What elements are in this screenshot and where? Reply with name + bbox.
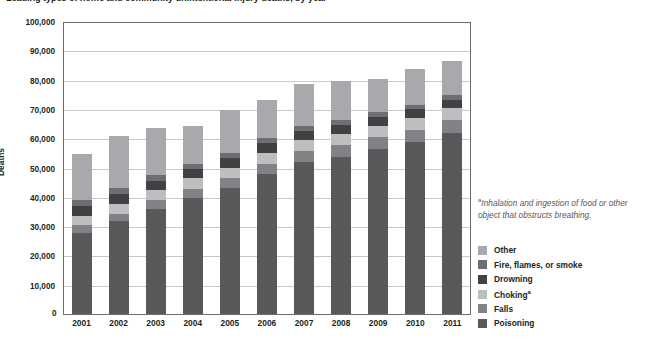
y-axis-tick-label: 40,000: [30, 193, 55, 202]
x-axis-tick-label: 2006: [250, 318, 284, 332]
footnote: aInhalation and ingestion of food or oth…: [478, 196, 646, 221]
legend-item-label: Poisoning: [494, 318, 534, 328]
x-axis-tick-label: 2007: [287, 318, 321, 332]
x-axis-tick-label: 2010: [398, 318, 432, 332]
y-axis-tick-label: 90,000: [30, 47, 55, 56]
y-axis-tick-label: 70,000: [30, 105, 55, 114]
legend-swatch-icon: [478, 304, 487, 313]
y-axis-tick-label: 60,000: [30, 135, 55, 144]
legend-item[interactable]: Other: [478, 243, 646, 258]
x-axis-tick-label: 2002: [102, 318, 136, 332]
legend-swatch-icon: [478, 319, 487, 328]
y-axis-tick-label: 10,000: [30, 281, 55, 290]
legend-item-label: Chokinga: [494, 289, 531, 300]
y-axis-tick-labels: 100,00090,00080,00070,00060,00050,00040,…: [0, 22, 59, 315]
legend-item[interactable]: Poisoning: [478, 316, 646, 331]
legend-item-label: Falls: [494, 304, 513, 314]
x-axis-tick-label: 2009: [361, 318, 395, 332]
legend-footnote-marker: a: [528, 289, 531, 295]
x-axis-tick-label: 2003: [139, 318, 173, 332]
legend-item[interactable]: Fire, flames, or smoke: [478, 258, 646, 273]
y-axis-tick-label: 100,000: [25, 18, 55, 27]
legend-item[interactable]: Drowning: [478, 272, 646, 287]
legend-item-label: Fire, flames, or smoke: [494, 260, 582, 270]
legend: OtherFire, flames, or smokeDrowningChoki…: [478, 243, 646, 331]
legend-item[interactable]: Chokinga: [478, 287, 646, 302]
y-axis-zero-label: 0: [52, 309, 57, 318]
plot-frame: [63, 22, 471, 315]
x-axis-tick-label: 2005: [213, 318, 247, 332]
legend-swatch-icon: [478, 260, 487, 269]
legend-item-label: Other: [494, 245, 516, 255]
legend-swatch-icon: [478, 246, 487, 255]
y-axis-tick-label: 30,000: [30, 223, 55, 232]
legend-item-label: Drowning: [494, 274, 533, 284]
legend-item[interactable]: Falls: [478, 301, 646, 316]
plot-area: [63, 22, 471, 315]
y-axis-tick-label: 50,000: [30, 164, 55, 173]
x-axis-tick-label: 2008: [324, 318, 358, 332]
legend-swatch-icon: [478, 275, 487, 284]
y-axis-tick-label: 20,000: [30, 252, 55, 261]
x-axis-tick-label: 2001: [65, 318, 99, 332]
page-title: Leading types of home and community unin…: [6, 0, 327, 3]
x-axis-tick-label: 2011: [435, 318, 469, 332]
y-axis-tick-label: 80,000: [30, 76, 55, 85]
legend-swatch-icon: [478, 290, 487, 299]
x-axis-tick-label: 2004: [176, 318, 210, 332]
x-axis-tick-labels: 2001200220032004200520062007200820092010…: [63, 318, 471, 332]
footnote-text: Inhalation and ingestion of food or othe…: [478, 198, 628, 220]
